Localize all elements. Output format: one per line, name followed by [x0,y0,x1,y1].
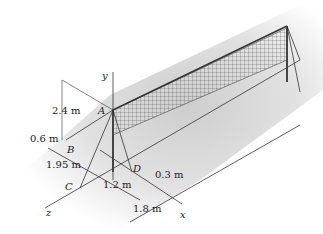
dim-height-A: 2.4 m [52,105,81,116]
dim-offset-B: 0.6 m [30,133,59,144]
x-axis-label: x [180,209,186,220]
point-C-label: C [65,181,73,192]
point-D-label: D [132,163,141,174]
y-axis-label: y [101,70,108,81]
dim-CD: 1.2 m [103,179,132,190]
dim-offset-D: 0.3 m [155,169,184,180]
point-B-label: B [66,144,74,155]
dim-x: 1.8 m [133,203,162,214]
z-axis-label: z [45,207,52,218]
point-A-label: A [97,105,105,116]
volleyball-net-diagram: y z x 2.4 m A B C D 0.6 m 1.95 m 1.2 m 0… [0,0,323,234]
dim-BC: 1.95 m [46,159,81,170]
